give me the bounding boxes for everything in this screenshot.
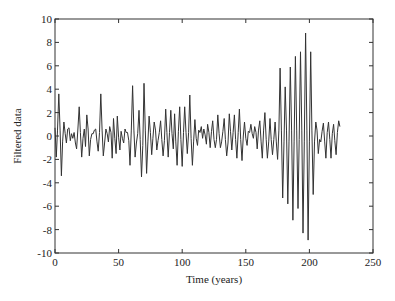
x-tick-label: 200 (301, 256, 318, 268)
x-tick-label: 150 (238, 256, 255, 268)
y-tick-label: 4 (47, 83, 53, 95)
x-tick-label: 0 (52, 256, 58, 268)
x-tick-label: 50 (113, 256, 125, 268)
y-tick-label: -6 (43, 200, 53, 212)
x-tick-label: 250 (365, 256, 382, 268)
line-chart: -10-8-6-4-20246810 050100150200250 Time … (0, 0, 395, 301)
y-tick-label: 10 (41, 13, 53, 25)
y-tick-label: -10 (37, 247, 52, 259)
y-tick-label: 2 (47, 107, 53, 119)
y-tick-label: -4 (43, 177, 53, 189)
y-tick-label: 0 (47, 130, 53, 142)
y-tick-label: -8 (43, 224, 53, 236)
filtered-data-line (55, 33, 340, 240)
x-axis-title: Time (years) (186, 273, 242, 286)
x-tick-label: 100 (174, 256, 191, 268)
y-axis-title: Filtered data (11, 108, 23, 163)
y-tick-label: -2 (43, 153, 52, 165)
x-axis-ticks: 050100150200250 (52, 19, 382, 268)
y-tick-label: 8 (47, 36, 53, 48)
y-tick-label: 6 (47, 60, 53, 72)
